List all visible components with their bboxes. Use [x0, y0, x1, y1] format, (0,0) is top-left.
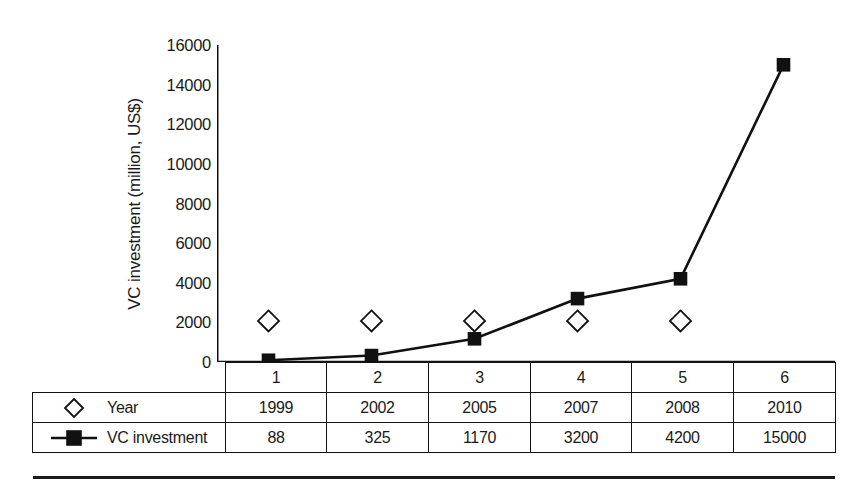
legend-entry: VC investment — [33, 423, 225, 452]
table-cell: 88 — [226, 423, 327, 453]
table-cell: 2010 — [734, 393, 836, 423]
table-cell: 2002 — [327, 393, 429, 423]
table-row: Year199920022005200720082010 — [33, 393, 836, 423]
y-tick-label: 14000 — [145, 77, 211, 93]
square-glyph — [67, 431, 81, 445]
open-diamond-icon — [49, 397, 99, 419]
vc-investment-square-marker — [366, 350, 378, 362]
vc-investment-square-marker — [572, 293, 584, 305]
year-diamond-marker — [670, 310, 691, 331]
table-cell: 2008 — [632, 393, 734, 423]
vc-investment-line — [269, 65, 784, 360]
table-cell: 1170 — [429, 423, 531, 453]
table-category-header: 6 — [734, 363, 836, 393]
year-diamond-marker — [464, 310, 485, 331]
table-cell: 325 — [327, 423, 429, 453]
legend-cell: Year — [33, 393, 226, 423]
vc-investment-square-marker — [263, 354, 275, 362]
table-category-header: 2 — [327, 363, 429, 393]
table-row: VC investment8832511703200420015000 — [33, 423, 836, 453]
data-table: 123456Year199920022005200720082010VC inv… — [32, 362, 836, 453]
table-category-header: 4 — [531, 363, 632, 393]
y-tick-label: 8000 — [145, 196, 211, 212]
legend-label: VC investment — [101, 429, 207, 447]
y-tick-label: 10000 — [145, 156, 211, 172]
y-tick-label: 16000 — [145, 37, 211, 53]
bottom-divider-rule — [33, 476, 835, 479]
chart-figure: VC investment (million, US$) 02000400060… — [0, 0, 867, 495]
table-cell: 3200 — [531, 423, 632, 453]
plot-svg — [217, 45, 835, 362]
y-tick-label: 12000 — [145, 116, 211, 132]
table-category-row: 123456 — [33, 363, 836, 393]
table-category-header: 5 — [632, 363, 734, 393]
table-category-header: 1 — [226, 363, 327, 393]
legend-label: Year — [101, 399, 138, 417]
table-category-header: 3 — [429, 363, 531, 393]
table-cell: 2005 — [429, 393, 531, 423]
legend-entry: Year — [33, 393, 225, 422]
legend-marker — [47, 397, 101, 419]
table-cell: 2007 — [531, 393, 632, 423]
table-cell: 4200 — [632, 423, 734, 453]
plot-area — [217, 45, 835, 362]
table-cell: 15000 — [734, 423, 836, 453]
legend-cell: VC investment — [33, 423, 226, 453]
y-axis-title: VC investment (million, US$) — [124, 45, 146, 363]
year-diamond-marker — [361, 310, 382, 331]
line-square-icon — [49, 427, 99, 449]
y-tick-label: 6000 — [145, 235, 211, 251]
year-diamond-marker — [567, 310, 588, 331]
y-tick-label: 2000 — [145, 314, 211, 330]
vc-investment-square-marker — [469, 333, 481, 345]
vc-investment-square-marker — [675, 273, 687, 285]
y-tick-label: 4000 — [145, 275, 211, 291]
table-corner-blank — [33, 363, 226, 393]
year-diamond-marker — [258, 310, 279, 331]
legend-marker — [47, 427, 101, 449]
table-cell: 1999 — [226, 393, 327, 423]
diamond-glyph — [65, 399, 83, 417]
vc-investment-square-marker — [778, 59, 790, 71]
